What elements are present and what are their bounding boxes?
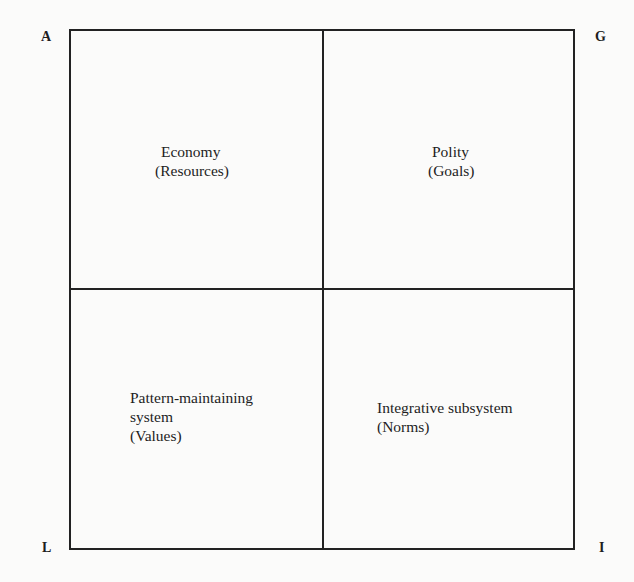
horizontal-divider bbox=[69, 288, 575, 290]
quadrant-integrative: Integrative subsystem (Norms) bbox=[377, 398, 513, 436]
quadrant-economy-subtitle: (Resources) bbox=[155, 161, 229, 180]
quadrant-integrative-title: Integrative subsystem bbox=[377, 398, 513, 417]
corner-label-i: I bbox=[599, 541, 604, 555]
quadrant-polity-subtitle: (Goals) bbox=[427, 161, 475, 180]
quadrant-polity-title: Polity bbox=[427, 142, 475, 161]
quadrant-pattern-title-2: system bbox=[130, 407, 253, 426]
quadrant-integrative-subtitle: (Norms) bbox=[377, 417, 513, 436]
quadrant-pattern-maintaining: Pattern-maintaining system (Values) bbox=[130, 388, 253, 445]
quadrant-pattern-title-1: Pattern-maintaining bbox=[130, 388, 253, 407]
quadrant-polity: Polity (Goals) bbox=[427, 142, 475, 180]
corner-label-l: L bbox=[42, 541, 51, 555]
quadrant-economy: Economy (Resources) bbox=[155, 142, 229, 180]
quadrant-economy-title: Economy bbox=[155, 142, 229, 161]
corner-label-a: A bbox=[41, 30, 51, 44]
corner-label-g: G bbox=[595, 30, 606, 44]
quadrant-pattern-subtitle: (Values) bbox=[130, 426, 253, 445]
